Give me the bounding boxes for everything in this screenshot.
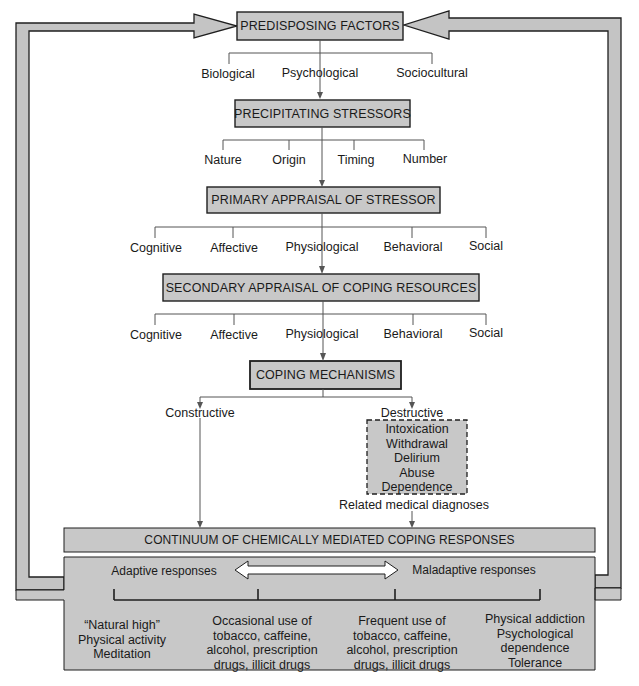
secondary-child-affective: Affective: [210, 328, 258, 342]
point-line: dependence: [485, 641, 585, 656]
point-line: Occasional use of: [206, 614, 317, 629]
precipitating-title: PRECIPITATING STRESSORS: [235, 100, 410, 127]
point-line: Physical addiction: [485, 612, 585, 627]
secondary-child-social: Social: [469, 326, 503, 340]
continuum-point-occasional-use: Occasional use of tobacco, caffeine, alc…: [206, 614, 317, 672]
secondary-title: SECONDARY APPRAISAL OF COPING RESOURCES: [163, 274, 479, 301]
point-line: alcohol, prescription: [206, 643, 317, 658]
precipitating-child-number: Number: [403, 152, 447, 166]
predisposing-child-psychological: Psychological: [282, 66, 358, 80]
predisposing-child-sociocultural: Sociocultural: [396, 66, 468, 80]
point-line: alcohol, prescription: [346, 643, 457, 658]
coping-title: COPING MECHANISMS: [250, 361, 401, 389]
destructive-item: Abuse: [382, 466, 453, 481]
point-line: drugs, illicit drugs: [346, 658, 457, 673]
left-feedback-arrow: [16, 14, 237, 590]
coping-destructive: Destructive: [381, 406, 444, 420]
coping-constructive: Constructive: [165, 406, 234, 420]
continuum-point-maladaptive: Physical addiction Psychological depende…: [485, 612, 585, 670]
primary-child-cognitive: Cognitive: [130, 241, 182, 255]
secondary-child-physiological: Physiological: [286, 327, 359, 341]
continuum-title: CONTINUUM OF CHEMICALLY MEDIATED COPING …: [64, 528, 595, 552]
destructive-item: Withdrawal: [382, 437, 453, 452]
point-line: Physical activity: [78, 633, 166, 648]
primary-title: PRIMARY APPRAISAL OF STRESSOR: [207, 187, 440, 213]
precipitating-child-origin: Origin: [272, 153, 305, 167]
point-line: “Natural high”: [78, 618, 166, 633]
precipitating-child-timing: Timing: [337, 153, 374, 167]
point-line: Frequent use of: [346, 614, 457, 629]
related-medical-diagnoses: Related medical diagnoses: [339, 498, 489, 512]
destructive-item: Intoxication: [382, 422, 453, 437]
continuum-point-adaptive: “Natural high” Physical activity Meditat…: [78, 618, 166, 662]
secondary-child-cognitive: Cognitive: [130, 328, 182, 342]
destructive-item: Delirium: [382, 451, 453, 466]
continuum-point-frequent-use: Frequent use of tobacco, caffeine, alcoh…: [346, 614, 457, 672]
point-line: Meditation: [78, 647, 166, 662]
point-line: Tolerance: [485, 656, 585, 671]
primary-child-social: Social: [469, 239, 503, 253]
predisposing-title: PREDISPOSING FACTORS: [237, 12, 403, 40]
destructive-item: Dependence: [382, 480, 453, 495]
primary-child-behavioral: Behavioral: [383, 240, 442, 254]
destructive-items: Intoxication Withdrawal Delirium Abuse D…: [382, 422, 453, 495]
secondary-child-behavioral: Behavioral: [383, 327, 442, 341]
precipitating-child-nature: Nature: [204, 153, 242, 167]
predisposing-child-biological: Biological: [201, 67, 255, 81]
point-line: drugs, illicit drugs: [206, 658, 317, 673]
primary-child-affective: Affective: [210, 241, 258, 255]
point-line: Psychological: [485, 627, 585, 642]
maladaptive-responses-label: Maladaptive responses: [412, 563, 535, 577]
primary-child-physiological: Physiological: [286, 240, 359, 254]
point-line: tobacco, caffeine,: [346, 629, 457, 644]
adaptive-responses-label: Adaptive responses: [111, 564, 216, 578]
point-line: tobacco, caffeine,: [206, 629, 317, 644]
